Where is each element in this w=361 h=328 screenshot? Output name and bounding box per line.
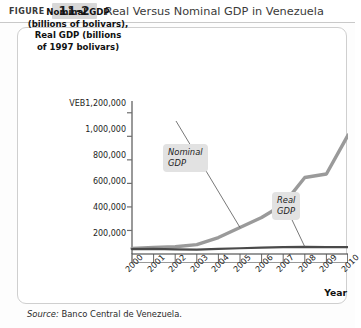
y-tick-label-1200000: VEB1,200,000: [40, 99, 126, 108]
y-tick-label-400000: 400,000: [40, 203, 126, 212]
y-axis-title-line-1: Nominal GDP: [19, 7, 137, 19]
source-text: Banco Central de Venezuela.: [61, 309, 182, 319]
y-tick-label-1000000: 1,000,000: [40, 125, 126, 134]
chart-canvas: [116, 73, 348, 263]
plot-area: [116, 73, 348, 263]
x-axis-title: Year: [324, 287, 347, 298]
annotation-real-gdp-line-2: GDP: [277, 206, 295, 217]
y-axis-title-line-4: of 1997 bolivars): [19, 42, 137, 54]
y-tick-label-200000: 200,000: [40, 229, 126, 238]
source-label: Source:: [27, 309, 59, 319]
annotation-real-gdp: Real GDP: [272, 192, 300, 220]
y-axis-title-line-3: Real GDP (billions: [19, 30, 137, 42]
annotation-real-gdp-line-1: Real: [277, 195, 295, 206]
source-note: Source: Banco Central de Venezuela.: [27, 309, 182, 319]
leader-line-nominal-gdp: [176, 121, 240, 228]
y-tick-label-800000: 800,000: [40, 151, 126, 160]
y-axis-title-line-2: (billions of bolivars),: [19, 19, 137, 31]
y-tick-marks: [127, 113, 132, 231]
figure-title: Real Versus Nominal GDP in Venezuela: [105, 5, 324, 18]
y-axis-title: Nominal GDP (billions of bolivars), Real…: [19, 7, 137, 53]
annotation-nominal-gdp-line-2: GDP: [168, 158, 203, 169]
annotation-nominal-gdp: Nominal GDP: [163, 144, 208, 172]
y-tick-label-600000: 600,000: [40, 177, 126, 186]
annotation-nominal-gdp-line-1: Nominal: [168, 147, 203, 158]
